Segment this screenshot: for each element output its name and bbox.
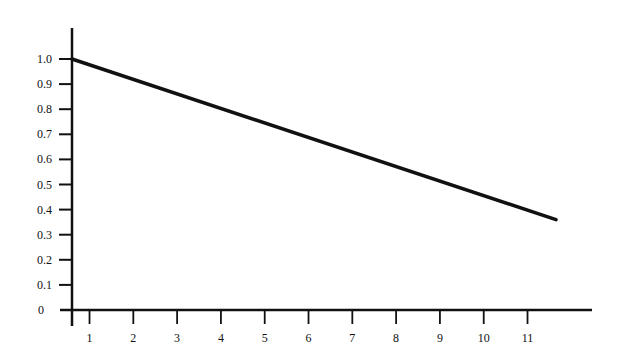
y-tick-label: 0.5 [37,178,52,192]
y-tick-label: 0.9 [37,77,52,91]
y-tick-label: 0.7 [37,127,52,141]
data-line [72,59,556,220]
x-tick-label: 7 [349,331,355,345]
axes [60,28,592,326]
y-ticks: 00.10.20.30.40.50.60.70.80.91.0 [37,52,72,317]
x-tick-label: 10 [478,331,490,345]
x-tick-label: 9 [437,331,443,345]
x-tick-label: 3 [174,331,180,345]
line-chart: 00.10.20.30.40.50.60.70.80.91.0 12345678… [0,0,627,358]
y-tick-label: 0.3 [37,228,52,242]
x-tick-label: 11 [522,331,534,345]
x-tick-label: 2 [130,331,136,345]
x-tick-label: 8 [393,331,399,345]
y-tick-label: 0.1 [37,278,52,292]
x-tick-label: 5 [262,331,268,345]
y-tick-label: 0.6 [37,152,52,166]
x-tick-label: 1 [87,331,93,345]
y-tick-label: 0.4 [37,203,52,217]
x-ticks: 1234567891011 [87,310,534,345]
y-tick-label: 1.0 [37,52,52,66]
x-tick-label: 4 [218,331,224,345]
y-tick-label: 0.2 [37,253,52,267]
y-tick-label: 0.8 [37,102,52,116]
x-tick-label: 6 [306,331,312,345]
series [72,59,556,220]
y-tick-label: 0 [38,303,44,317]
